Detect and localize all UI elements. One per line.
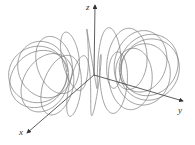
toroidal-spiral-figure (0, 0, 195, 145)
spiral-curve-front (9, 44, 171, 116)
x-axis (27, 75, 94, 133)
x-axis-label: x (19, 128, 23, 137)
z-axis-label: z (86, 3, 90, 12)
y-axis-label: y (178, 106, 182, 115)
z-axis (94, 5, 95, 75)
